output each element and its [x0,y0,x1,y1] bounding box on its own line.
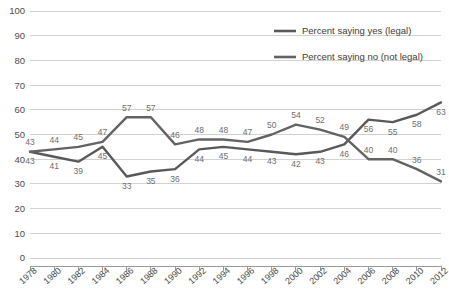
y-axis-tick-label: 50 [14,129,25,140]
data-point-label: 48 [219,125,229,135]
data-point-label: 43 [25,137,35,147]
data-point-label: 47 [98,127,108,137]
data-point-label: 43 [25,156,35,166]
y-axis-tick-label: 70 [14,80,25,91]
legend-item-label: Percent saying yes (legal) [302,25,411,36]
data-point-label: 56 [364,124,374,134]
data-point-label: 40 [364,145,374,155]
data-point-label: 46 [340,149,350,159]
data-point-label: 52 [315,115,325,125]
data-point-label: 45 [98,151,108,161]
y-axis-tick-label: 80 [14,55,25,66]
data-point-label: 43 [267,156,277,166]
data-point-label: 47 [243,127,253,137]
y-axis-tick-label: 0 [20,252,25,263]
data-point-label: 57 [122,103,132,113]
data-point-label: 45 [74,132,84,142]
line-chart: 0102030405060708090100 19781980198219841… [0,0,449,297]
y-axis-tick-label: 40 [14,154,25,165]
data-point-label: 46 [170,130,180,140]
data-point-label: 48 [195,125,205,135]
data-point-label: 57 [146,103,156,113]
data-point-label: 54 [291,110,301,120]
chart-canvas: 0102030405060708090100 19781980198219841… [0,0,449,297]
data-point-label: 44 [49,135,59,145]
data-point-label: 58 [412,119,422,129]
data-point-label: 49 [340,122,350,132]
data-point-label: 45 [219,151,229,161]
data-point-label: 35 [146,176,156,186]
legend-item-label: Percent saying no (not legal) [302,51,423,62]
data-point-label: 36 [170,174,180,184]
y-axis-tick-label: 100 [9,5,25,16]
data-point-label: 63 [436,107,446,117]
data-point-label: 40 [388,145,398,155]
y-axis-tick-label: 20 [14,203,25,214]
data-point-label: 43 [315,156,325,166]
data-point-label: 33 [122,181,132,191]
y-axis-tick-label: 30 [14,178,25,189]
data-point-label: 41 [49,161,59,171]
y-axis-tick-label: 60 [14,104,25,115]
data-point-label: 31 [436,167,446,177]
data-point-label: 42 [291,159,301,169]
y-axis-tick-label: 90 [14,30,25,41]
data-point-label: 50 [267,120,277,130]
y-axis-tick-label: 10 [14,228,25,239]
data-point-label: 44 [243,154,253,164]
data-point-label: 44 [195,154,205,164]
data-point-label: 39 [74,166,84,176]
data-point-label: 36 [412,155,422,165]
data-point-label: 55 [388,127,398,137]
